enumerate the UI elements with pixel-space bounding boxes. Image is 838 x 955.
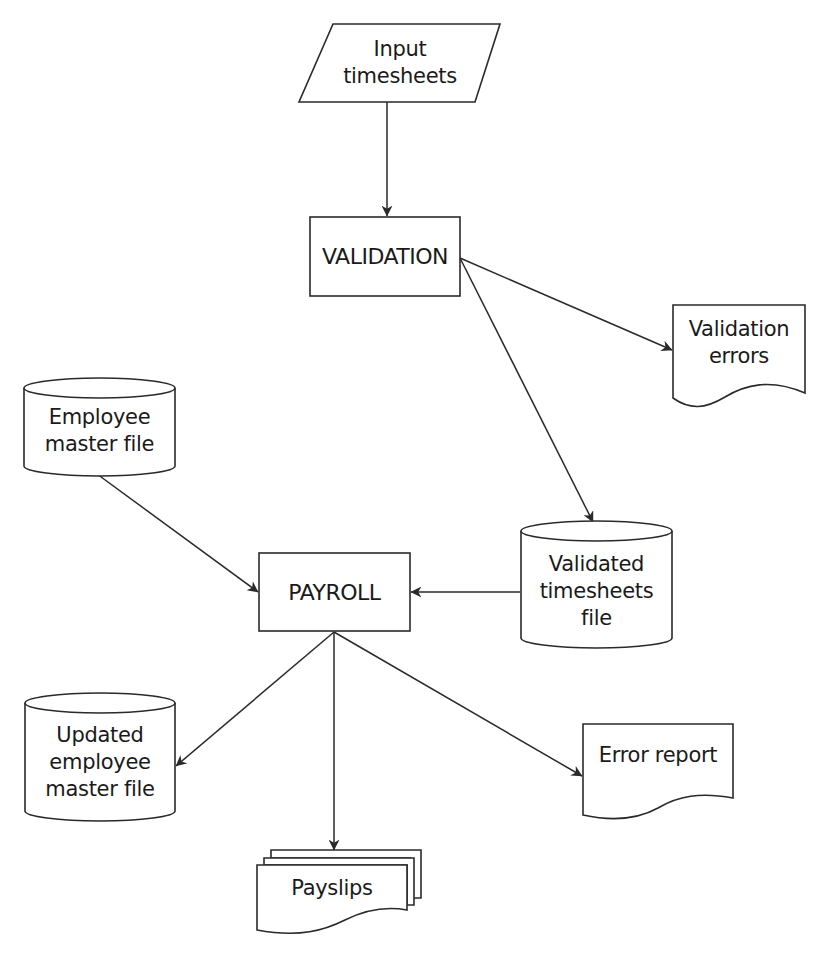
edge-payroll-to-updated-master: [176, 632, 334, 766]
label-line: file: [581, 605, 612, 632]
payslips-label: Payslips: [257, 870, 407, 906]
error-report-label: Error report: [583, 735, 733, 775]
validation-errors-label: Validation errors: [673, 310, 805, 376]
edge-validation-to-errors: [460, 258, 672, 350]
edge-employee-master-to-payroll: [97, 474, 258, 592]
validated-timesheets-file-label: Validated timesheets file: [521, 544, 672, 638]
label-line: master file: [45, 776, 154, 803]
edge-validation-to-validated-file: [460, 258, 593, 522]
label-line: employee: [49, 749, 150, 776]
updated-employee-master-file-label: Updated employee master file: [25, 715, 175, 809]
label-line: Employee: [49, 404, 151, 431]
label-line: master file: [45, 431, 154, 458]
employee-master-file-label: Employee master file: [24, 398, 175, 464]
flowchart-canvas: [0, 0, 838, 955]
input-timesheets-label: Input timesheets: [310, 26, 490, 100]
label-line: Validated: [549, 551, 644, 578]
label-line: errors: [709, 343, 769, 370]
validation-label: VALIDATION: [310, 217, 460, 296]
label-line: timesheets: [343, 63, 457, 90]
payroll-label: PAYROLL: [259, 553, 410, 631]
label-line: VALIDATION: [322, 243, 448, 270]
label-line: timesheets: [540, 578, 654, 605]
edge-payroll-to-error-report: [334, 632, 582, 776]
label-line: Error report: [599, 742, 717, 769]
label-line: Validation: [689, 316, 790, 343]
label-line: PAYROLL: [288, 579, 380, 606]
label-line: Input: [374, 36, 427, 63]
label-line: Updated: [56, 722, 143, 749]
label-line: Payslips: [291, 875, 373, 902]
